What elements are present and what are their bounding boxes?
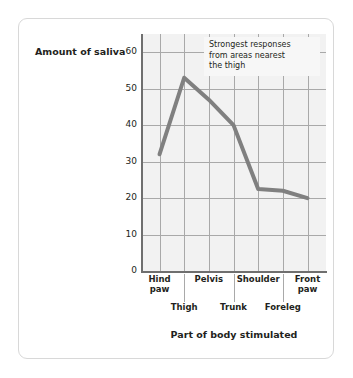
figure-card: Amount of saliva 0102030405060 Strongest… (18, 18, 334, 359)
annotation-line-2: from areas nearest (209, 51, 316, 62)
y-tick-label: 50 (126, 83, 137, 93)
x-tick-label-line: Trunk (220, 302, 247, 312)
saliva-response-line (160, 78, 308, 198)
x-tick-stem (184, 274, 185, 302)
x-tick-label-line: Shoulder (237, 274, 280, 284)
y-tick-label: 0 (131, 265, 137, 275)
x-labels-upper-row: HindpawPelvisShoulderFrontpaw (141, 274, 327, 300)
y-tick-label: 10 (126, 229, 137, 239)
x-tick-label-line: Hind (148, 274, 170, 284)
y-tick-label: 30 (126, 156, 137, 166)
x-tick-label-line: paw (148, 284, 170, 294)
y-tick-label: 60 (126, 46, 137, 56)
x-tick-label: Pelvis (195, 274, 223, 284)
x-tick-label: Hindpaw (148, 274, 170, 294)
x-tick-label-line: Foreleg (265, 302, 301, 312)
x-tick-stem (283, 274, 284, 302)
x-tick-label: Trunk (220, 302, 247, 312)
x-tick-label-line: Front (295, 274, 320, 284)
x-tick-label: Foreleg (265, 302, 301, 312)
x-tick-label: Shoulder (237, 274, 280, 284)
x-tick-label-line: paw (295, 284, 320, 294)
x-axis-line (141, 271, 327, 273)
y-tick-label: 20 (126, 192, 137, 202)
annotation-callout: Strongest responses from areas nearest t… (204, 37, 320, 76)
x-tick-label-line: Pelvis (195, 274, 223, 284)
x-tick-stem (234, 274, 235, 302)
x-tick-label-line: Thigh (171, 302, 198, 312)
x-tick-label: Frontpaw (295, 274, 320, 294)
y-axis-line (141, 34, 143, 272)
annotation-line-1: Strongest responses (209, 40, 316, 51)
x-axis-title: Part of body stimulated (141, 329, 327, 340)
annotation-line-3: the thigh (209, 61, 316, 72)
x-labels-lower-row: ThighTrunkForeleg (141, 302, 327, 328)
x-tick-label: Thigh (171, 302, 198, 312)
y-tick-labels: 0102030405060 (111, 34, 137, 271)
y-tick-label: 40 (126, 119, 137, 129)
